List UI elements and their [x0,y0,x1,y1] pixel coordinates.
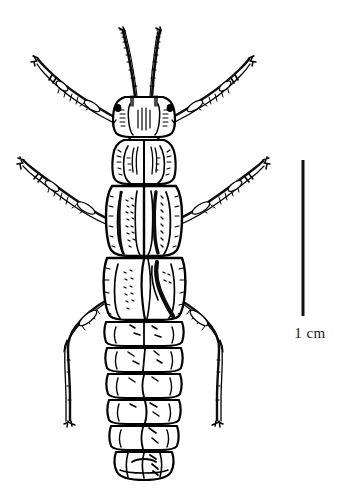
figure-canvas: 1 cm [0,0,337,494]
head-capsule [113,96,175,142]
abdomen [105,322,184,480]
scale-bar-label: 1 cm [283,325,337,342]
compound-eye-left [115,104,122,112]
pronotum [112,140,175,184]
compound-eye-right [167,104,174,112]
mesothorax-wing-pads [106,186,182,256]
metathorax-wing-pads [104,258,186,320]
insect-nymph-illustration [0,0,337,494]
